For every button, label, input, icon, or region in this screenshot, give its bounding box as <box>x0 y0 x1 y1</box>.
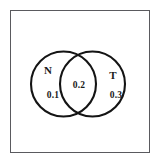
venn-circle-left <box>31 52 96 117</box>
venn-diagram-figure: N 0.1 0.2 T 0.3 <box>0 0 160 163</box>
set-label-left: N <box>44 65 52 76</box>
set-label-right: T <box>109 70 117 81</box>
venn-circle-right <box>60 52 125 117</box>
set-value-left-only: 0.1 <box>47 91 59 101</box>
set-value-right-only: 0.3 <box>110 91 122 101</box>
set-value-intersection: 0.2 <box>73 81 85 91</box>
